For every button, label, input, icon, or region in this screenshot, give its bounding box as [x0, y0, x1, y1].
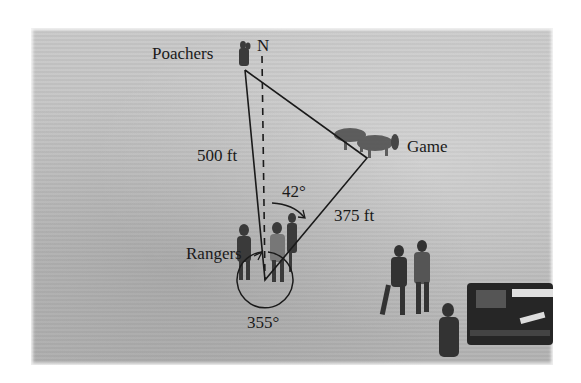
angle-42-label: 42°: [282, 183, 306, 200]
side-length-rangers-poachers: 500 ft: [197, 147, 237, 164]
background-people-and-vehicle: [380, 240, 553, 357]
bearing-diagram-figure: N Poachers Game 500 ft 375 ft 42° Ranger…: [0, 0, 581, 383]
north-label: N: [257, 37, 269, 54]
rangers-label: Rangers: [186, 245, 242, 262]
side-length-rangers-game: 375 ft: [334, 207, 374, 224]
game-label: Game: [407, 138, 448, 155]
angle-355-label: 355°: [247, 314, 279, 331]
poachers-label: Poachers: [152, 45, 213, 62]
angle-42-arc: [272, 203, 304, 217]
rangers-figures: [237, 213, 297, 282]
poachers-figures: [239, 41, 251, 66]
game-animals: [334, 128, 399, 158]
